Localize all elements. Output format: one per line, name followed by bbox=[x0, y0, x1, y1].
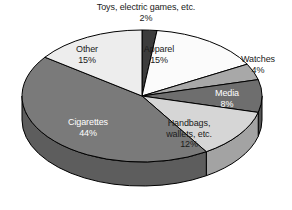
slice-label-cigarettes: Cigarettes 44% bbox=[46, 117, 130, 138]
slice-label-apparel-name: Apparel bbox=[128, 44, 190, 55]
slice-label-handbags-name-2: wallets, etc. bbox=[146, 129, 232, 140]
slice-label-watches: Watches 4% bbox=[228, 54, 288, 75]
slice-label-cigarettes-percent: 44% bbox=[46, 128, 130, 139]
slice-label-handbags: Handbags, wallets, etc. 12% bbox=[146, 118, 232, 150]
slice-label-toys-name: Toys, electric games, etc. bbox=[62, 2, 230, 13]
slice-label-toys: Toys, electric games, etc. 2% bbox=[62, 2, 230, 23]
slice-label-other: Other 15% bbox=[62, 44, 112, 65]
slice-label-media: Media 8% bbox=[204, 88, 250, 109]
pie-chart: Toys, electric games, etc. 2% Apparel 15… bbox=[0, 0, 292, 210]
slice-label-watches-percent: 4% bbox=[228, 65, 288, 76]
slice-label-cigarettes-name: Cigarettes bbox=[46, 117, 130, 128]
slice-label-apparel: Apparel 15% bbox=[128, 44, 190, 65]
slice-label-media-name: Media bbox=[204, 88, 250, 99]
slice-label-other-name: Other bbox=[62, 44, 112, 55]
slice-label-apparel-percent: 15% bbox=[128, 55, 190, 66]
slice-label-other-percent: 15% bbox=[62, 55, 112, 66]
slice-label-handbags-name-1: Handbags, bbox=[146, 118, 232, 129]
slice-label-toys-percent: 2% bbox=[62, 13, 230, 24]
slice-label-handbags-percent: 12% bbox=[146, 139, 232, 150]
slice-label-watches-name: Watches bbox=[228, 54, 288, 65]
slice-label-media-percent: 8% bbox=[204, 99, 250, 110]
